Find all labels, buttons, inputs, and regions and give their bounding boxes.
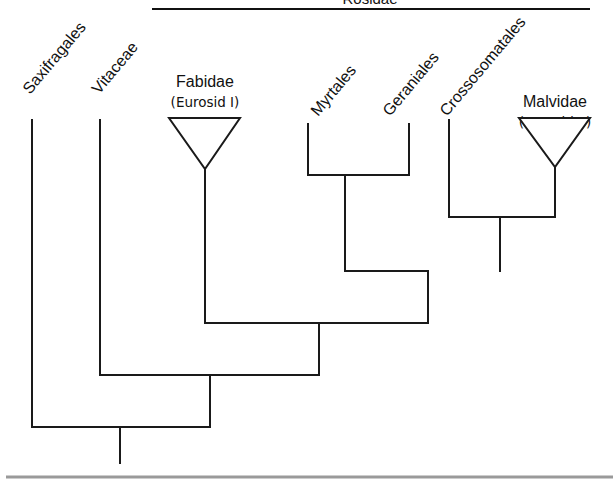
- taxon-label-myrtales: Myrtales: [307, 62, 359, 119]
- collapsed-clade-triangle-fabidae: [169, 118, 240, 169]
- collapsed-clade-triangle-malvidae: [519, 118, 590, 167]
- clade-malvidae: Malvidae (Eurosid II): [519, 93, 592, 167]
- clade-sublabel-fabidae: (Eurosid I): [171, 94, 240, 110]
- taxon-label-crossosomatales: Crossosomatales: [436, 13, 528, 119]
- branch-mg-cm-join: [345, 271, 428, 323]
- taxon-label-geraniales: Geraniales: [379, 49, 442, 119]
- clade-title-malvidae: Malvidae: [523, 93, 587, 110]
- top-bracket: Rosidae: [152, 0, 590, 9]
- clade-title-fabidae: Fabidae: [176, 73, 234, 90]
- branches: [32, 120, 555, 463]
- branch-root: [32, 120, 210, 463]
- clade-fabidae: Fabidae (Eurosid I): [169, 73, 240, 169]
- taxon-label-saxifragales: Saxifragales: [19, 19, 89, 97]
- branch-myrtales-geraniales: [308, 124, 409, 271]
- branch-vitaceae-join: [100, 120, 319, 427]
- top-bracket-label: Rosidae: [342, 0, 397, 7]
- taxon-label-vitaceae: Vitaceae: [88, 38, 141, 96]
- cladogram: Rosidae Saxifragales Vitaceae Myrtales G…: [0, 0, 613, 483]
- tip-labels: Saxifragales Vitaceae Myrtales Geraniale…: [19, 13, 528, 119]
